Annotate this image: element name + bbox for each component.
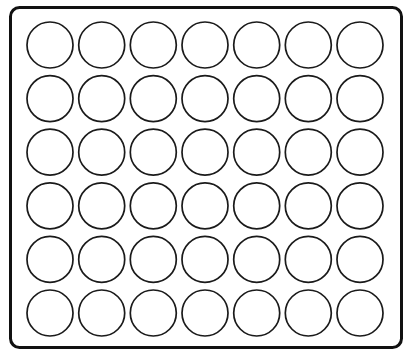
circle-cell [130,236,176,282]
circle-cell [182,236,228,282]
circle-cell [182,129,228,175]
circle-cell [234,129,280,175]
circle-cell [130,290,176,336]
circle-grid-diagram [0,0,414,363]
circle-cell [27,183,73,229]
circle-cell [234,183,280,229]
circle-cell [27,290,73,336]
circle-cell [79,236,125,282]
circle-cell [27,236,73,282]
circle-cell [130,22,176,68]
circle-cell [79,183,125,229]
circle-cell [337,236,383,282]
circle-cell [27,76,73,122]
circle-cell [285,129,331,175]
circle-cell [79,129,125,175]
circle-cell [285,290,331,336]
circle-cell [79,290,125,336]
circle-cell [285,76,331,122]
circle-cell [182,76,228,122]
circle-cell [182,290,228,336]
circle-cell [234,236,280,282]
circle-cell [27,22,73,68]
circle-cell [285,183,331,229]
circle-cell [337,290,383,336]
circle-cell [182,183,228,229]
circle-cell [27,129,73,175]
circle-cell [130,183,176,229]
diagram-canvas [0,0,414,363]
circle-cell [337,76,383,122]
circle-cell [130,129,176,175]
circle-cell [79,22,125,68]
circle-cell [234,76,280,122]
circle-cell [285,22,331,68]
circle-cell [130,76,176,122]
circle-cell [79,76,125,122]
circle-cell [337,183,383,229]
circle-cell [337,129,383,175]
circle-cell [182,22,228,68]
circle-cell [337,22,383,68]
circle-cell [234,290,280,336]
circle-cell [234,22,280,68]
circle-cell [285,236,331,282]
